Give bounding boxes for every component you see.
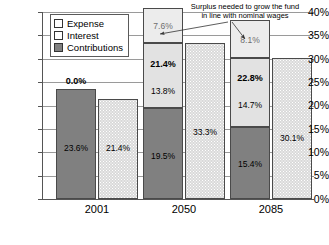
legend-item-expense[interactable]: Expense [54,18,123,29]
label-2001-top-zero: 0.0% [56,77,96,86]
ytick-label-15: 15% [293,124,329,134]
label-2085-expense: 30.1% [272,134,312,143]
bar-2001-contributions[interactable]: 23.6% 0.0% [56,89,96,199]
label-2085-surplus: 8.1% [230,36,270,45]
label-2085-interest: 14.7% [230,101,270,110]
ytick-label-25: 25% [293,77,329,87]
xtick-label-2050: 2050 [143,203,225,215]
label-2050-surplus: 7.6% [143,22,183,31]
legend-item-interest[interactable]: Interest [54,30,123,41]
label-2001-expense: 21.4% [98,144,138,153]
legend-swatch-expense-icon [54,19,63,28]
label-2050-total: 21.4% [143,60,183,69]
y-axis [42,12,43,200]
legend-label-expense: Expense [67,18,104,29]
legend: Expense Interest Contributions [50,14,129,57]
segment-interest [230,58,270,127]
ytick-label-10: 10% [293,147,329,157]
bar-2050-expense[interactable]: 33.3% [185,43,225,199]
ytick-label-30: 30% [293,54,329,64]
xtick-label-2001: 2001 [56,203,138,215]
segment-expense [185,43,225,199]
segment-interest [143,43,183,108]
ytick-label-20: 20% [293,100,329,110]
label-2085-total: 22.8% [230,74,270,83]
annotation-line-1: Surplus needed to grow the fund [170,2,320,11]
ytick-label-35: 35% [293,30,329,40]
annotation-surplus: Surplus needed to grow the fund in line … [170,2,320,20]
bar-2001-expense[interactable]: 21.4% [98,99,138,199]
x-axis [42,199,314,200]
label-2050-interest: 13.8% [143,87,183,96]
legend-swatch-contributions-icon [54,43,63,52]
bar-2085-stack[interactable]: 15.4% 14.7% 22.8% 8.1% [230,20,270,199]
label-2001-contributions: 23.6% [56,144,96,153]
legend-item-contributions[interactable]: Contributions [54,42,123,53]
xtick-label-2085: 2085 [230,203,312,215]
legend-swatch-interest-icon [54,31,63,40]
ytick-label-5: 5% [293,170,329,180]
bar-group-2050: 19.5% 13.8% 21.4% 7.6% 33.3% [143,12,225,199]
legend-label-contributions: Contributions [67,42,123,53]
label-2085-contributions: 15.4% [230,160,270,169]
annotation-line-2: in line with nominal wages [170,11,320,20]
label-2050-contributions: 19.5% [143,152,183,161]
label-2050-expense: 33.3% [185,128,225,137]
stacked-bar-chart: 23.6% 0.0% 21.4% 19.5% 13.8% 21.4% 7.6% [0,0,329,245]
legend-label-interest: Interest [67,30,99,41]
bar-2050-stack[interactable]: 19.5% 13.8% 21.4% 7.6% [143,8,183,199]
